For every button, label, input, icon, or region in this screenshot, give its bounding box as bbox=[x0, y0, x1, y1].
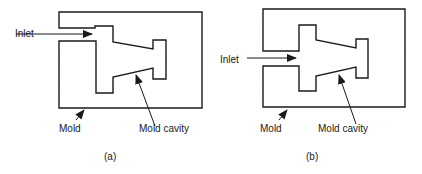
cavity-label-b: Mold cavity bbox=[318, 124, 368, 134]
mold-arrow-a bbox=[76, 110, 84, 120]
mold-label-a: Mold bbox=[59, 124, 81, 134]
caption-b: (b) bbox=[306, 152, 318, 162]
cavity-arrow-b bbox=[339, 75, 356, 124]
mold-outline-upper-a bbox=[59, 12, 202, 108]
mold-label-b: Mold bbox=[260, 124, 282, 134]
figure-a bbox=[16, 12, 202, 126]
mold-diagrams bbox=[0, 0, 422, 174]
caption-a: (a) bbox=[104, 152, 116, 162]
figure-b bbox=[247, 9, 405, 124]
inlet-label-b: Inlet bbox=[220, 55, 239, 65]
cavity-label-a: Mold cavity bbox=[139, 124, 189, 134]
cavity-arrow-a bbox=[136, 75, 155, 126]
mold-arrow-b bbox=[279, 110, 287, 120]
inlet-label-a: Inlet bbox=[15, 29, 34, 39]
